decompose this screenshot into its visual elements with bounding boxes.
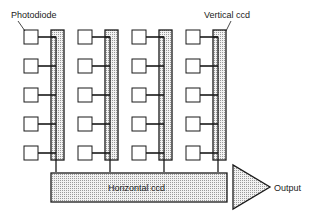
vertical-ccd-leader <box>226 21 231 31</box>
output-amplifier <box>233 165 270 209</box>
horizontal-ccd-label: Horizontal ccd <box>108 183 165 193</box>
ccd-diagram: Photodiode Vertical ccd Horizontal ccd O… <box>0 0 316 220</box>
photodiode-leader <box>18 21 25 31</box>
output-label: Output <box>274 183 302 193</box>
photodiode-label: Photodiode <box>11 10 57 20</box>
vertical-ccd-label: Vertical ccd <box>204 10 250 20</box>
